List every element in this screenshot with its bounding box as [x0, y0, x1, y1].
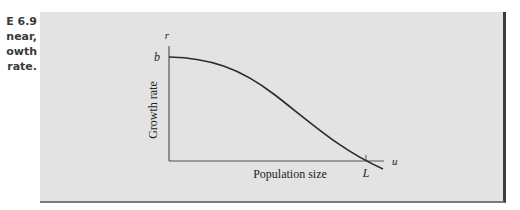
y-intercept-label: b — [154, 50, 160, 64]
growth-curve — [169, 57, 383, 169]
x-axis-symbol: u — [392, 155, 398, 167]
x-axis-label: Population size — [253, 167, 327, 181]
growth-rate-chart: r b u L Population size Growth rate — [0, 0, 520, 210]
y-axis-label: Growth rate — [146, 81, 160, 139]
x-intercept-label: L — [362, 166, 370, 180]
y-axis-symbol: r — [165, 29, 170, 41]
